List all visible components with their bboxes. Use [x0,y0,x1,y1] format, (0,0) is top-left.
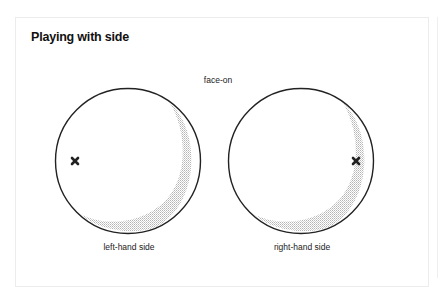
right-sphere [229,89,374,234]
left-hand-side-label: left-hand side [103,242,154,252]
left-sphere [56,89,201,234]
left-x-marker-icon [72,158,78,164]
right-hand-side-label: right-hand side [274,242,330,252]
